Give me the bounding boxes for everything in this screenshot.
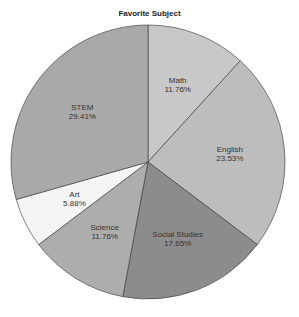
slice-label: STEM	[71, 103, 94, 112]
slice-percent: 23.53%	[216, 154, 243, 163]
slice-label: English	[217, 145, 243, 154]
slice-percent: 11.76%	[91, 232, 118, 241]
slice-percent: 5.88%	[63, 199, 86, 208]
slice-label: Math	[169, 76, 187, 85]
slice-label: Social Studies	[152, 230, 203, 239]
slice-percent: 17.65%	[164, 239, 191, 248]
slice-percent: 11.76%	[164, 85, 191, 94]
slice-label: Science	[90, 223, 119, 232]
slice-percent: 29.41%	[69, 112, 96, 121]
pie-chart: Math11.76%English23.53%Social Studies17.…	[0, 0, 299, 317]
slice-label: Art	[69, 190, 80, 199]
